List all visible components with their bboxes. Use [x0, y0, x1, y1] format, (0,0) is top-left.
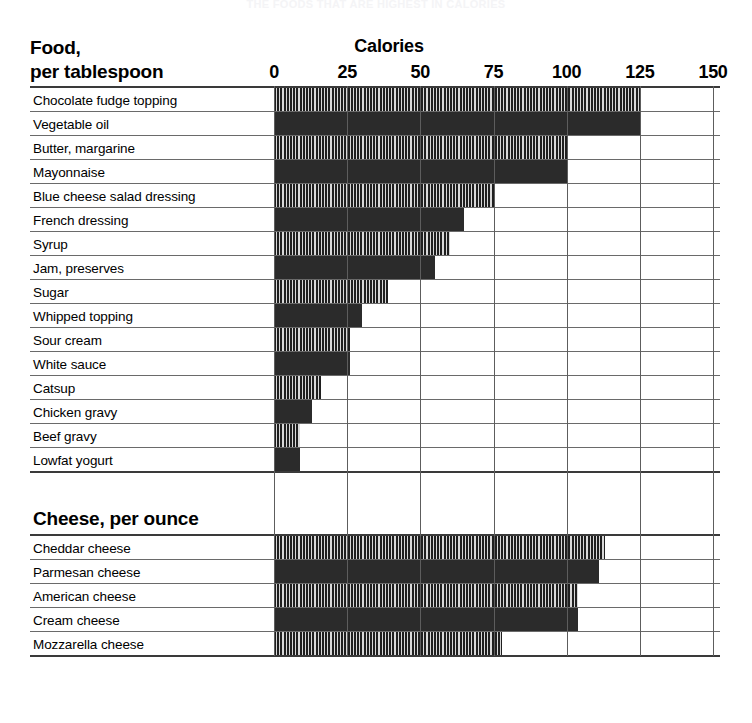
chart-row: Butter, margarine: [30, 136, 720, 160]
axis-tick-label: 75: [484, 62, 503, 83]
section-rule: [30, 655, 720, 657]
chart-row: Sour cream: [30, 328, 720, 352]
chart-row-label: Lowfat yogurt: [33, 452, 113, 467]
chart-row: French dressing: [30, 208, 720, 232]
chart-row: American cheese: [30, 584, 720, 608]
chart-row-label: Cheddar cheese: [33, 540, 131, 555]
chart-bar: [274, 536, 605, 559]
chart-bar: [274, 208, 464, 231]
row-header-line1: Food,: [30, 36, 163, 60]
chart-row: Mozzarella cheese: [30, 632, 720, 656]
chart-row: White sauce: [30, 352, 720, 376]
chart-bar: [274, 256, 435, 279]
chart-row: Catsup: [30, 376, 720, 400]
chart-row: Vegetable oil: [30, 112, 720, 136]
chart-bar: [274, 112, 640, 135]
chart-row: Mayonnaise: [30, 160, 720, 184]
chart-row-label: American cheese: [33, 588, 136, 603]
axis-tick-label: 150: [698, 62, 727, 83]
chart-row-label: French dressing: [33, 212, 128, 227]
chart-bar: [274, 400, 312, 423]
faint-top-title: THE FOODS THAT ARE HIGHEST IN CALORIES: [0, 0, 752, 10]
axis-tick-label: 50: [411, 62, 430, 83]
chart-row-label: Sugar: [33, 284, 69, 299]
chart-page: THE FOODS THAT ARE HIGHEST IN CALORIES F…: [0, 0, 752, 723]
chart-row-label: Syrup: [33, 236, 68, 251]
chart-row: Cheddar cheese: [30, 536, 720, 560]
chart-bar: [274, 184, 494, 207]
chart-row-label: Beef gravy: [33, 428, 97, 443]
chart-bar: [274, 88, 640, 111]
chart-bar: [274, 424, 300, 447]
axis-tick-label: 100: [552, 62, 581, 83]
axis-title: Calories: [274, 36, 504, 57]
chart-row: Cream cheese: [30, 608, 720, 632]
chart-row: Jam, preserves: [30, 256, 720, 280]
chart-row-label: Chocolate fudge topping: [33, 92, 177, 107]
chart-row-label: Catsup: [33, 380, 75, 395]
chart-row-label: Butter, margarine: [33, 140, 135, 155]
chart-row-label: Chicken gravy: [33, 404, 117, 419]
axis-tick-labels: 0255075100125150: [30, 62, 720, 86]
chart-bar: [274, 632, 502, 655]
chart-bar: [274, 352, 350, 375]
section-rule: [30, 471, 720, 473]
chart-row-label: Vegetable oil: [33, 116, 109, 131]
chart-header: Food, per tablespoon Calories 0255075100…: [30, 36, 720, 86]
chart-row: Chicken gravy: [30, 400, 720, 424]
chart-bar: [274, 232, 450, 255]
chart-row-label: Jam, preserves: [33, 260, 124, 275]
chart-row-label: Mayonnaise: [33, 164, 105, 179]
chart-row-label: Parmesan cheese: [33, 564, 140, 579]
section-gap: Cheese, per ounce: [30, 474, 720, 534]
chart-row-label: White sauce: [33, 356, 106, 371]
chart-plot: Chocolate fudge toppingVegetable oilButt…: [30, 86, 720, 658]
chart-row: Whipped topping: [30, 304, 720, 328]
chart-bar: [274, 160, 567, 183]
axis-tick-label: 0: [269, 62, 279, 83]
chart-row-label: Mozzarella cheese: [33, 636, 144, 651]
chart-bar: [274, 280, 388, 303]
section-title: Cheese, per ounce: [33, 508, 199, 530]
chart-row: Beef gravy: [30, 424, 720, 448]
chart-bar: [274, 376, 321, 399]
chart-row-label: Whipped topping: [33, 308, 133, 323]
chart-row-label: Sour cream: [33, 332, 102, 347]
axis-tick-label: 125: [625, 62, 654, 83]
chart-bar: [274, 328, 350, 351]
chart-row: Syrup: [30, 232, 720, 256]
chart-bar: [274, 304, 362, 327]
chart-bar: [274, 136, 567, 159]
chart-row: Chocolate fudge topping: [30, 88, 720, 112]
chart-bar: [274, 448, 300, 471]
chart-row: Sugar: [30, 280, 720, 304]
chart-row-label: Blue cheese salad dressing: [33, 188, 196, 203]
axis-tick-label: 25: [337, 62, 356, 83]
chart-row: Blue cheese salad dressing: [30, 184, 720, 208]
chart-bar: [274, 560, 599, 583]
chart-row: Parmesan cheese: [30, 560, 720, 584]
chart-bar: [274, 608, 578, 631]
chart-row: Lowfat yogurt: [30, 448, 720, 472]
chart-bar: [274, 584, 578, 607]
chart-row-label: Cream cheese: [33, 612, 120, 627]
